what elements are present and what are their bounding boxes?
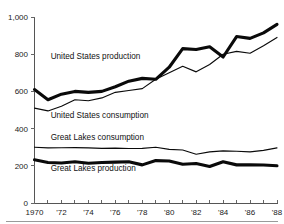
x-tick-label: '80 [164, 208, 175, 217]
line-chart: 02004006008001,000 1970'72'74'76'78'80'8… [0, 0, 284, 224]
us-consumption-label: United States consumption [51, 111, 149, 120]
x-tick-label: '88 [272, 208, 283, 217]
y-tick-label: 400 [15, 125, 29, 134]
chart-container: 02004006008001,000 1970'72'74'76'78'80'8… [0, 0, 284, 224]
gl-consumption-label: Great Lakes consumption [51, 133, 145, 142]
x-tick-label: '78 [137, 208, 148, 217]
y-tick-label: 600 [15, 87, 29, 96]
x-tick-label: '86 [245, 208, 256, 217]
y-tick-label: 1,000 [8, 13, 29, 22]
y-tick-label: 800 [15, 50, 29, 59]
x-tick-label: 1970 [26, 208, 44, 217]
y-tick-label: 0 [24, 199, 29, 208]
gl-production-label: Great Lakes production [51, 164, 137, 173]
x-tick-label: '76 [110, 208, 121, 217]
us-production-label: United States production [51, 52, 141, 61]
x-tick-label: '72 [56, 208, 67, 217]
y-tick-label: 200 [15, 162, 29, 171]
x-tick-label: '84 [218, 208, 229, 217]
x-tick-label: '82 [191, 208, 202, 217]
x-tick-label: '74 [83, 208, 94, 217]
